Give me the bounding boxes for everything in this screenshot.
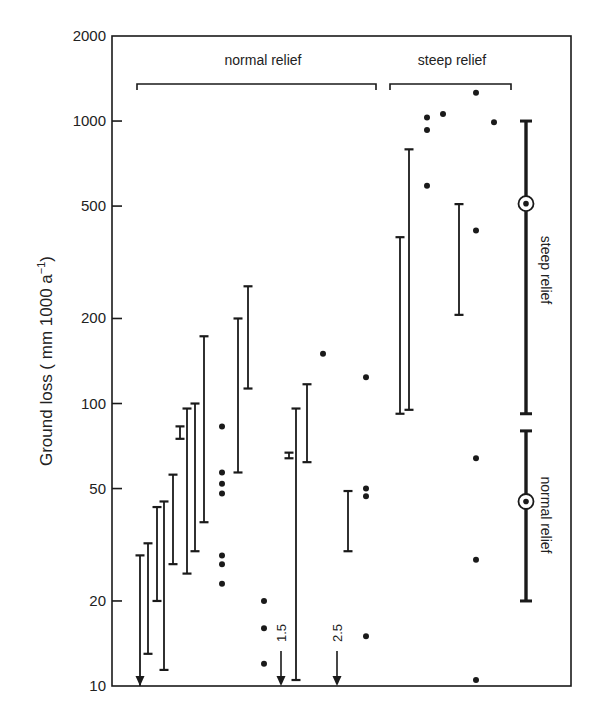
data-point: [473, 90, 479, 96]
range-bar: [285, 453, 294, 459]
range-bar: [144, 543, 153, 654]
y-tick-label: 50: [89, 480, 106, 497]
data-point: [219, 491, 225, 497]
range-bar: [303, 384, 312, 462]
range-bar: [344, 491, 353, 551]
y-axis-title: Ground loss ( mm 1000 a−1): [35, 256, 56, 466]
range-bar: [405, 149, 414, 409]
y-tick-label: 100: [81, 395, 106, 412]
y-tick-label: 1000: [73, 112, 106, 129]
y-tick-label: 10: [89, 677, 106, 694]
data-point: [261, 598, 267, 604]
y-tick-label: 2000: [73, 27, 106, 44]
range-bar: [136, 555, 145, 686]
summary-bar: [519, 431, 534, 601]
data-point: [491, 119, 497, 125]
arrow-down-icon: [277, 676, 286, 686]
below-axis-arrows: 1.52.5: [274, 624, 345, 686]
below-axis-arrow: 1.5: [274, 624, 289, 686]
data-point: [363, 374, 369, 380]
mean-marker-dot: [523, 499, 529, 505]
group-label-steep-relief: steep relief: [418, 52, 487, 68]
range-bars: [136, 149, 464, 686]
data-points: [219, 90, 497, 683]
chart-canvas: 10205010020050010002000 Ground loss ( mm…: [0, 0, 598, 719]
y-tick-label: 20: [89, 592, 106, 609]
data-point: [363, 633, 369, 639]
data-point: [261, 661, 267, 667]
data-point: [219, 423, 225, 429]
data-point: [219, 561, 225, 567]
range-bar: [292, 409, 301, 680]
summary-label-normal-relief: normal relief: [538, 476, 554, 553]
y-axis: 10205010020050010002000: [73, 27, 122, 694]
range-bar: [396, 237, 405, 414]
data-point: [219, 552, 225, 558]
arrow-down-icon: [333, 676, 342, 686]
group-brackets: normal relief steep relief: [137, 52, 511, 90]
group-bracket: [137, 84, 376, 90]
range-bar: [455, 204, 464, 315]
data-point: [473, 455, 479, 461]
plot-border: [112, 36, 571, 686]
range-bar: [191, 404, 200, 552]
plot-frame: [112, 36, 571, 686]
y-axis-title-text: Ground loss ( mm 1000 a−1): [35, 256, 56, 466]
data-point: [440, 111, 446, 117]
data-point: [424, 114, 430, 120]
data-point: [320, 351, 326, 357]
arrow-value-label: 2.5: [330, 624, 345, 642]
summary-bars: steep relief normal relief: [519, 121, 555, 601]
data-point: [363, 493, 369, 499]
range-bar: [176, 426, 185, 438]
data-point: [473, 557, 479, 563]
arrow-value-label: 1.5: [274, 624, 289, 642]
ground-loss-chart: 10205010020050010002000 Ground loss ( mm…: [0, 0, 598, 719]
y-tick-label: 500: [81, 197, 106, 214]
data-point: [473, 677, 479, 683]
range-bar: [153, 507, 162, 601]
range-bar: [183, 409, 192, 574]
summary-bar: [519, 121, 534, 414]
range-bar: [160, 501, 169, 669]
data-point: [219, 581, 225, 587]
data-point: [261, 625, 267, 631]
range-bar: [244, 286, 253, 388]
data-point: [473, 227, 479, 233]
group-label-normal-relief: normal relief: [224, 52, 301, 68]
data-point: [424, 127, 430, 133]
summary-label-steep-relief: steep relief: [538, 236, 554, 305]
data-point: [219, 481, 225, 487]
range-bar: [169, 475, 178, 564]
group-bracket: [390, 84, 511, 90]
mean-marker-dot: [523, 201, 529, 207]
data-point: [424, 183, 430, 189]
below-axis-arrow: 2.5: [330, 624, 345, 686]
y-tick-label: 200: [81, 309, 106, 326]
range-bar: [200, 336, 209, 522]
data-point: [219, 469, 225, 475]
data-point: [363, 486, 369, 492]
arrow-down-icon: [136, 676, 145, 686]
range-bar: [234, 318, 243, 472]
